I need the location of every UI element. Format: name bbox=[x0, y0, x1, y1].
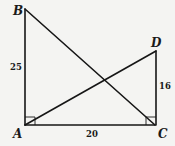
point-label-d: D bbox=[150, 36, 162, 50]
diagram-svg: B A C D 25 16 20 bbox=[0, 0, 175, 146]
geometry-diagram: B A C D 25 16 20 bbox=[0, 0, 175, 146]
point-label-a: A bbox=[12, 127, 22, 141]
point-label-b: B bbox=[12, 4, 23, 18]
length-label-cd: 16 bbox=[159, 81, 171, 91]
length-label-ac: 20 bbox=[86, 129, 98, 139]
segment-ad bbox=[25, 51, 156, 125]
segment-bc bbox=[25, 9, 155, 125]
length-label-ab: 25 bbox=[10, 62, 22, 72]
point-label-c: C bbox=[158, 127, 168, 141]
